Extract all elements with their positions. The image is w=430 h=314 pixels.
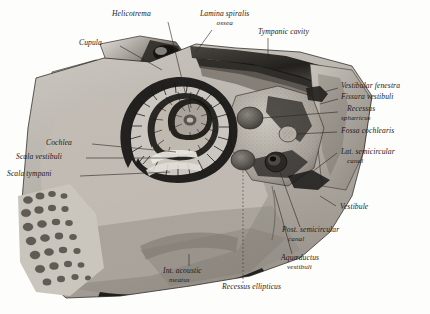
- label-recessus-sphaericus-sub: sphæricus: [341, 114, 375, 123]
- label-aquaeductus-vestibuli: Aquæductus vestibuli: [281, 254, 319, 271]
- label-recessus-sphaericus: Recessus sphæricus: [347, 105, 375, 122]
- label-lamina-spiralis: Lamina spiralis ossea: [200, 10, 249, 27]
- label-post-semicircular-canal-sub: canal: [282, 235, 339, 244]
- anatomical-plate: Helicotrema Lamina spiralis ossea Tympan…: [0, 0, 430, 314]
- label-scala-tympani: Scala tympani: [7, 170, 52, 179]
- label-int-acoustic-meatus-sub: meatus: [163, 276, 202, 285]
- label-lat-semicircular-canal-sub: canal: [341, 157, 395, 166]
- label-aquaeductus-vestibuli-sub: vestibuli: [281, 263, 319, 272]
- label-tympanic-cavity: Tympanic cavity: [258, 28, 309, 37]
- label-cochlea: Cochlea: [46, 139, 72, 148]
- label-vestibular-fenestra: Vestibular fenestra: [341, 82, 400, 91]
- label-lat-semicircular-canal: Lat. semicircular canal: [341, 148, 395, 165]
- label-lamina-spiralis-sub: ossea: [200, 19, 249, 28]
- label-cupula: Cupula: [79, 39, 102, 48]
- label-fissura-vestibuli: Fissura vestibuli: [341, 93, 394, 102]
- label-post-semicircular-canal: Post. semicircular canal: [282, 226, 339, 243]
- label-scala-vestibuli: Scala vestibuli: [16, 153, 62, 162]
- label-vestibule: Vestibule: [340, 203, 368, 212]
- label-int-acoustic-meatus: Int. acoustic meatus: [163, 267, 202, 284]
- label-helicotrema: Helicotrema: [112, 10, 151, 19]
- label-fossa-cochlearis: Fossa cochlearis: [341, 127, 394, 136]
- label-recessus-ellipticus: Recessus ellipticus: [222, 283, 281, 292]
